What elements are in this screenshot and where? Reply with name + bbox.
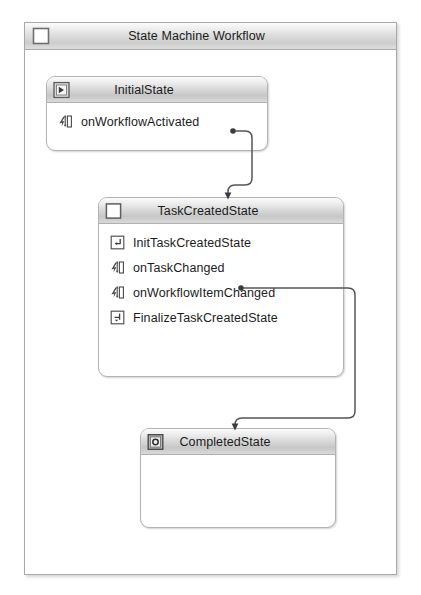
state-initialization-icon xyxy=(109,234,126,251)
state-finalization-icon xyxy=(109,309,126,326)
activity-label: FinalizeTaskCreatedState xyxy=(133,311,278,325)
state-box-completed-state[interactable]: CompletedState xyxy=(140,428,336,528)
state-title-task-created-state: TaskCreatedState xyxy=(99,204,343,218)
activity-label: onTaskChanged xyxy=(133,261,225,275)
state-body-completed-state xyxy=(141,455,335,467)
activity-row-on-workflow-item-changed[interactable]: onWorkflowItemChanged xyxy=(99,280,343,305)
state-header-initial-state[interactable]: InitialState xyxy=(47,77,267,103)
workflow-square-icon xyxy=(32,27,50,45)
state-body-initial-state: onWorkflowActivated xyxy=(47,103,267,140)
activity-label: onWorkflowItemChanged xyxy=(133,286,275,300)
event-handler-icon xyxy=(109,259,126,276)
event-handler-icon xyxy=(57,113,74,130)
state-box-initial-state[interactable]: InitialState onWorkflowActivated xyxy=(46,76,268,151)
workflow-header[interactable]: State Machine Workflow xyxy=(25,23,396,50)
initial-state-icon xyxy=(53,81,70,98)
state-header-completed-state[interactable]: CompletedState xyxy=(141,429,335,455)
activity-row-on-task-changed[interactable]: onTaskChanged xyxy=(99,255,343,280)
activity-row-init-task-created-state[interactable]: InitTaskCreatedState xyxy=(99,230,343,255)
state-title-initial-state: InitialState xyxy=(47,83,267,97)
activity-row-finalize-task-created-state[interactable]: FinalizeTaskCreatedState xyxy=(99,305,343,330)
state-title-completed-state: CompletedState xyxy=(141,435,335,449)
activity-row-on-workflow-activated[interactable]: onWorkflowActivated xyxy=(47,109,267,134)
workflow-designer-canvas: State Machine Workflow InitialState xyxy=(0,0,421,595)
state-body-task-created-state: InitTaskCreatedState onTaskChanged xyxy=(99,224,343,336)
event-handler-icon xyxy=(109,284,126,301)
state-header-task-created-state[interactable]: TaskCreatedState xyxy=(99,198,343,224)
page-title: State Machine Workflow xyxy=(25,29,396,43)
activity-label: InitTaskCreatedState xyxy=(133,236,251,250)
state-square-icon xyxy=(105,202,122,219)
state-box-task-created-state[interactable]: TaskCreatedState InitTaskCreatedState xyxy=(98,197,344,377)
activity-label: onWorkflowActivated xyxy=(81,115,199,129)
completed-state-icon xyxy=(147,433,164,450)
